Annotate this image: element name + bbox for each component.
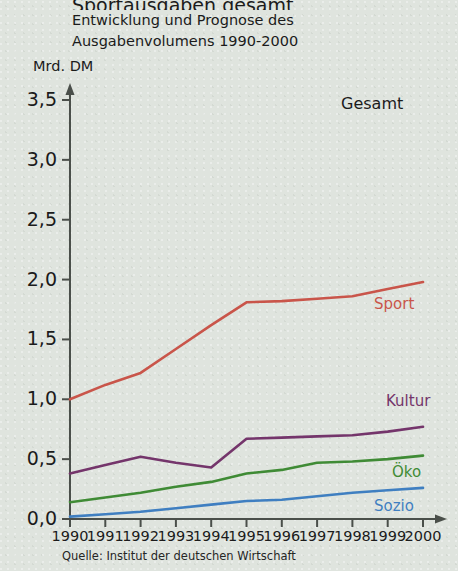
- series-label-sport: Sport: [374, 296, 414, 312]
- series-label-öko: Öko: [392, 464, 421, 480]
- y-axis-tick-label: 0,0: [11, 509, 57, 528]
- source-note: Quelle: Institut der deutschen Wirtschaf…: [62, 550, 296, 563]
- x-axis-tick-label: 2000: [401, 528, 445, 544]
- series-line-öko: [70, 456, 423, 503]
- y-axis-tick-label: 3,5: [11, 90, 57, 109]
- y-axis-tick-label: 2,5: [11, 210, 57, 229]
- y-axis-tick-label: 3,0: [11, 150, 57, 169]
- y-axis-tick-label: 2,0: [11, 270, 57, 289]
- plot-area: [0, 0, 458, 571]
- y-axis-tick-label: 1,5: [11, 329, 57, 348]
- y-axis-tick-labels: 0,00,51,01,52,02,53,03,5: [0, 0, 57, 571]
- series-line-kultur: [70, 427, 423, 474]
- series-label-kultur: Kultur: [386, 393, 430, 409]
- y-axis-tick-label: 0,5: [11, 449, 57, 468]
- series-label-sozio: Sozio: [374, 498, 414, 514]
- y-axis-tick-label: 1,0: [11, 389, 57, 408]
- series-line-sport: [70, 282, 423, 399]
- series-line-sozio: [70, 488, 423, 517]
- chart-figure: Sportausgaben gesamt Entwicklung und Pro…: [0, 0, 458, 571]
